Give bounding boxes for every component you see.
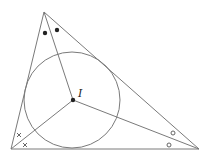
filled-dot-icon bbox=[43, 31, 47, 35]
diagram-canvas: I bbox=[0, 0, 211, 158]
bisector-bottom-left bbox=[11, 100, 73, 149]
incenter-point bbox=[71, 98, 75, 102]
cross-icon bbox=[17, 133, 21, 137]
triangle bbox=[11, 12, 199, 149]
open-circle-icon bbox=[167, 143, 171, 147]
cross-icon bbox=[23, 143, 27, 147]
incircle-diagram: I bbox=[0, 0, 211, 158]
bisector-bottom-right bbox=[73, 100, 199, 149]
open-circle-icon bbox=[171, 131, 175, 135]
filled-dot-icon bbox=[55, 28, 59, 32]
incenter-label: I bbox=[77, 87, 83, 100]
